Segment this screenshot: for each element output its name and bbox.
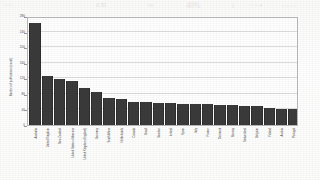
bar <box>239 106 250 125</box>
y-axis-tick-labels: 04080120160200240280 <box>0 0 25 180</box>
x-tick-label: Norway <box>232 128 235 137</box>
bar <box>264 108 275 125</box>
x-tick-label: South Africa <box>108 128 111 143</box>
bar <box>177 104 188 125</box>
x-tick-label: Italy <box>195 128 198 133</box>
y-tick-label: 160 <box>1 62 25 65</box>
x-tick-label: United Kingdom <box>47 128 50 147</box>
x-tick-label: France <box>207 128 210 136</box>
plot-area <box>27 17 298 126</box>
bar <box>288 109 298 125</box>
bar <box>190 104 201 125</box>
y-tick-label: 40 <box>1 109 25 112</box>
bar <box>103 98 114 125</box>
y-tick-label: 280 <box>1 15 25 18</box>
x-tick-label: Finland <box>269 128 272 137</box>
bar <box>140 102 151 125</box>
x-tick-label: Sweden <box>158 128 161 138</box>
y-tick-label: 240 <box>1 31 25 34</box>
bar <box>29 23 40 125</box>
y-tick-label: 0 <box>1 124 25 127</box>
bar <box>202 104 213 125</box>
bar <box>214 105 225 125</box>
bar <box>79 88 90 125</box>
bar <box>128 102 139 125</box>
bar <box>153 103 164 125</box>
bar <box>116 99 127 125</box>
bar-chart-figure: Number of publications (count) 040801201… <box>0 0 320 180</box>
bar <box>227 105 238 125</box>
y-tick-label: 200 <box>1 46 25 49</box>
x-tick-label: Netherlands <box>121 128 124 143</box>
x-tick-label: Switzerland <box>244 128 247 142</box>
x-tick-label: Austria <box>281 128 284 136</box>
x-tick-label: Germany <box>96 128 99 139</box>
y-tick-label: 80 <box>1 93 25 96</box>
x-tick-label: New Zealand <box>59 128 62 144</box>
gridline-horizontal <box>28 62 297 63</box>
x-tick-label: United Kingdom (England) <box>84 128 87 160</box>
y-tick-label: 120 <box>1 77 25 80</box>
x-tick-label: Canada <box>133 128 136 137</box>
bar <box>42 76 53 125</box>
x-axis-tick-labels: AustraliaUnited KingdomNew ZealandUnited… <box>27 127 298 180</box>
bar <box>66 81 77 125</box>
bar <box>276 109 287 125</box>
x-tick-label: Belgium <box>256 128 259 138</box>
bar <box>54 79 65 125</box>
bar <box>165 103 176 125</box>
bar <box>251 106 262 125</box>
x-tick-label: United States of America <box>72 128 75 158</box>
x-tick-label: Portugal <box>293 128 296 138</box>
x-tick-label: Spain <box>182 128 185 135</box>
gridline-horizontal <box>28 77 297 78</box>
x-tick-label: Brazil <box>145 128 148 135</box>
bar <box>91 92 102 125</box>
gridline-horizontal <box>28 46 297 47</box>
gridline-horizontal <box>28 31 297 32</box>
x-tick-label: Denmark <box>219 128 222 139</box>
x-tick-label: Australia <box>35 128 38 138</box>
x-tick-label: Ireland <box>170 128 173 136</box>
